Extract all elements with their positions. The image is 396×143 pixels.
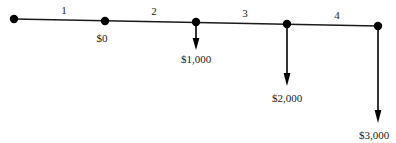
period-label-2: 2 xyxy=(151,5,157,17)
cash-flow-arrowhead-1000 xyxy=(193,38,200,50)
cash-flow-arrowhead-3000 xyxy=(375,110,382,123)
timeline-canvas: 1 2 3 4 $0 $1,000 $2,000 $3,000 xyxy=(0,0,396,143)
cash-flow-arrow-1000 xyxy=(193,22,200,50)
timeline-node-0 xyxy=(10,15,18,23)
cash-flow-arrow-2000 xyxy=(284,24,291,86)
node-label-zero: $0 xyxy=(97,32,109,44)
cash-flow-label-3000: $3,000 xyxy=(359,129,390,141)
period-label-1: 1 xyxy=(61,4,67,16)
cash-flow-arrow-3000 xyxy=(375,26,382,123)
cash-flow-arrowhead-2000 xyxy=(284,73,291,86)
timeline-node-1 xyxy=(101,17,109,25)
cash-flow-timeline-diagram: 1 2 3 4 $0 $1,000 $2,000 $3,000 xyxy=(0,0,396,143)
cash-flow-label-1000: $1,000 xyxy=(181,53,212,65)
period-label-4: 4 xyxy=(334,9,340,21)
period-label-3: 3 xyxy=(242,7,248,19)
cash-flow-label-2000: $2,000 xyxy=(272,92,303,104)
